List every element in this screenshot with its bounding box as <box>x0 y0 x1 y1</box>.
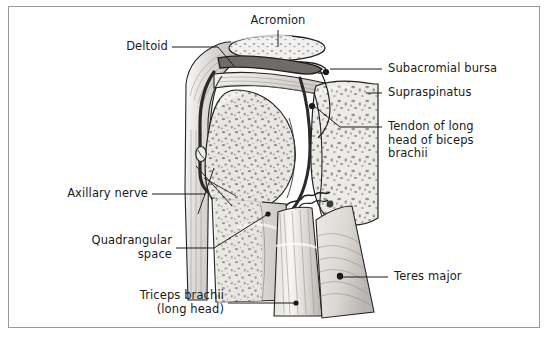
triceps-brachii <box>274 207 322 316</box>
glenoid-scapula <box>311 81 378 228</box>
label-quadrangular-space: Quadrangularspace <box>52 234 172 261</box>
label-biceps-tendon-line1: Tendon of long <box>388 119 474 133</box>
label-supraspinatus: Supraspinatus <box>388 86 538 100</box>
dot-quadrangular <box>265 211 270 216</box>
label-biceps-tendon-line3: brachii <box>388 146 428 160</box>
label-quadrangular-space-line2: space <box>138 247 172 261</box>
label-axillary-nerve: Axillary nerve <box>38 187 148 201</box>
dot-triceps <box>293 300 298 305</box>
label-deltoid: Deltoid <box>82 40 168 54</box>
label-acromion: Acromion <box>228 14 328 28</box>
axillary-nerve <box>196 147 206 162</box>
label-subacromial-bursa: Subacromial bursa <box>388 62 538 76</box>
label-teres-major: Teres major <box>394 270 524 284</box>
label-triceps-brachii: Triceps brachii(long head) <box>112 289 224 316</box>
label-triceps-brachii-line2: (long head) <box>157 302 224 316</box>
dot-teres-major <box>337 274 342 279</box>
subacromial-bursa <box>218 56 326 74</box>
label-quadrangular-space-line1: Quadrangular <box>91 233 172 247</box>
humeral-head <box>205 90 298 214</box>
label-triceps-brachii-line1: Triceps brachii <box>140 288 224 302</box>
label-biceps-tendon-line2: head of biceps <box>388 133 474 147</box>
label-biceps-tendon: Tendon of longhead of bicepsbrachii <box>388 120 538 161</box>
anatomical-figure: Acromion Deltoid Subacromial bursa Supra… <box>0 0 550 338</box>
